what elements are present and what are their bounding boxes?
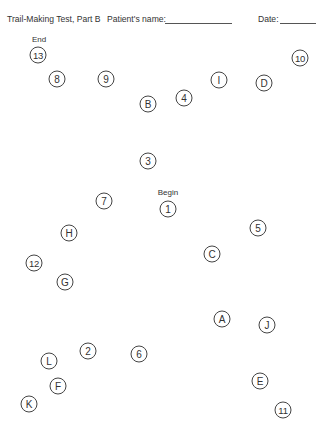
trail-node-1[interactable]: 1: [160, 201, 177, 218]
trail-node-j[interactable]: J: [259, 317, 276, 334]
trail-node-12[interactable]: 12: [26, 255, 43, 272]
trail-node-10[interactable]: 10: [292, 50, 309, 67]
trail-node-2[interactable]: 2: [80, 343, 97, 360]
trail-node-5[interactable]: 5: [250, 220, 267, 237]
trail-node-l[interactable]: L: [41, 353, 58, 370]
trail-node-f[interactable]: F: [50, 378, 67, 395]
trail-node-k[interactable]: K: [21, 396, 38, 413]
trail-node-b[interactable]: B: [140, 96, 157, 113]
trail-node-d[interactable]: D: [256, 75, 273, 92]
trail-node-a[interactable]: A: [214, 311, 231, 328]
trail-node-g[interactable]: G: [57, 274, 74, 291]
trail-node-13[interactable]: 13: [30, 47, 47, 64]
date-label: Date:: [258, 14, 279, 24]
date-field[interactable]: [280, 23, 316, 24]
trail-node-11[interactable]: 11: [275, 402, 292, 419]
end-label: End: [32, 35, 46, 44]
trail-node-e[interactable]: E: [252, 373, 269, 390]
trail-node-h[interactable]: H: [61, 225, 78, 242]
trail-node-i[interactable]: I: [211, 72, 228, 89]
trail-node-c[interactable]: C: [204, 246, 221, 263]
patient-name-label: Patient's name:: [107, 14, 166, 24]
trail-node-4[interactable]: 4: [176, 90, 193, 107]
trail-node-8[interactable]: 8: [49, 71, 66, 88]
test-title: Trail-Making Test, Part B: [7, 14, 101, 24]
trail-node-9[interactable]: 9: [98, 71, 115, 88]
patient-name-field[interactable]: [165, 23, 232, 24]
trail-node-3[interactable]: 3: [140, 153, 157, 170]
begin-label: Begin: [158, 188, 178, 197]
trail-node-6[interactable]: 6: [131, 346, 148, 363]
trail-node-7[interactable]: 7: [96, 193, 113, 210]
